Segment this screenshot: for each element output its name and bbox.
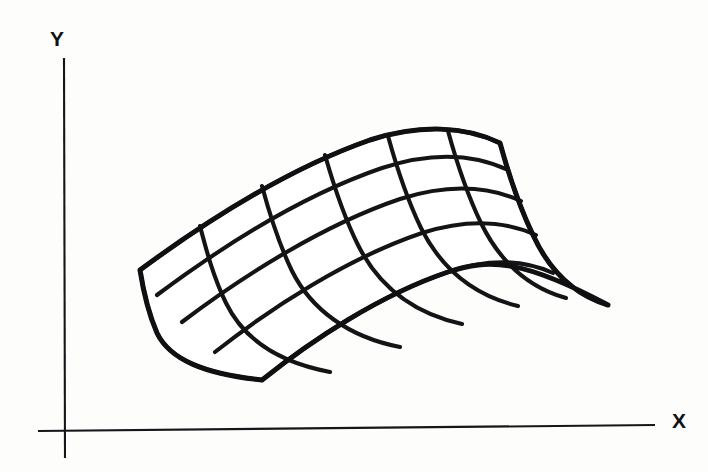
- x-axis-label: X: [672, 409, 686, 432]
- surface-mesh-diagram: X Y: [0, 0, 708, 472]
- y-axis-line: [64, 58, 65, 458]
- figure-canvas: X Y: [0, 0, 708, 472]
- y-axis-label: Y: [50, 27, 64, 50]
